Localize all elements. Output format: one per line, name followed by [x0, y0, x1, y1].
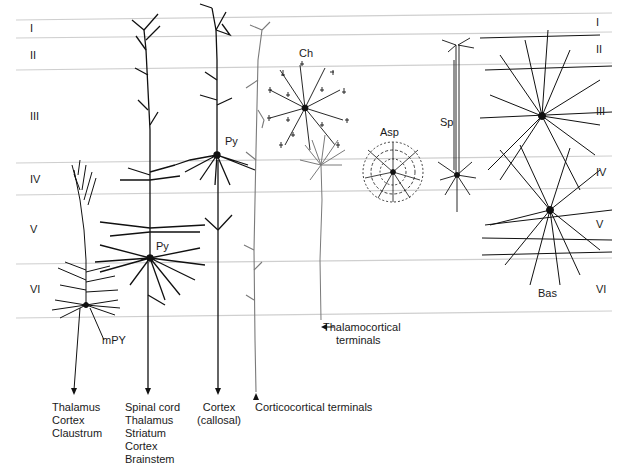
basket-cells — [480, 30, 612, 285]
layer-label-ii-left: II — [30, 49, 36, 61]
layer-label-i-right: I — [596, 16, 599, 28]
layer-label-iii-right: III — [596, 105, 605, 117]
aspiny-stellate-cell — [363, 142, 423, 202]
cell-label-bas: Bas — [538, 287, 557, 300]
cell-label-mpy: mPY — [102, 334, 126, 347]
layer-label-v-right: V — [596, 218, 603, 230]
target-striatum: Striatum — [125, 427, 180, 440]
target-thalamus: Thalamus — [125, 414, 180, 427]
target-spinal-cord: Spinal cord — [125, 401, 180, 414]
target-brainstem: Brainstem — [125, 453, 180, 466]
target-cortex: Cortex — [52, 414, 102, 427]
py-lower-targets: Spinal cord Thalamus Striatum Cortex Bra… — [125, 401, 180, 466]
thalamocortical-axon — [300, 135, 345, 320]
target-cortex: Cortex — [125, 440, 180, 453]
corticocortical-axon — [244, 22, 270, 392]
mpy-targets: Thalamus Cortex Claustrum — [52, 401, 102, 440]
cell-label-sp: Sp — [440, 116, 453, 129]
cell-label-asp: Asp — [380, 126, 399, 139]
cell-label-py-upper: Py — [225, 135, 238, 148]
layer-label-iii-left: III — [30, 110, 39, 122]
chandelier-cell — [267, 61, 349, 150]
target-cortex: Cortex — [197, 401, 241, 414]
thalamocortical-line2: terminals — [323, 334, 401, 347]
arrow-down-icon — [71, 388, 77, 395]
cell-label-py-lower: Py — [156, 240, 169, 253]
py-upper-targets: Cortex (callosal) — [197, 401, 241, 427]
layer-label-vi-left: VI — [30, 283, 40, 295]
corticocortical-terminals-label: Corticocortical terminals — [255, 401, 372, 414]
layer-label-v-left: V — [30, 223, 37, 235]
arrow-down-icon — [145, 388, 151, 395]
layer-label-ii-right: II — [596, 43, 602, 55]
target-callosal: (callosal) — [197, 414, 241, 427]
layer-boundaries — [16, 13, 612, 318]
arrow-left-icon — [321, 323, 335, 331]
layer-label-vi-right: VI — [596, 283, 606, 295]
pyramidal-neuron-layer-iii — [175, 4, 255, 390]
arrow-up-icon — [253, 393, 259, 400]
layer-label-i-left: I — [30, 22, 33, 34]
layer-label-iv-right: IV — [596, 166, 606, 178]
arrow-down-icon — [215, 388, 221, 395]
target-claustrum: Claustrum — [52, 427, 102, 440]
cell-label-ch: Ch — [299, 47, 313, 60]
layer-label-iv-left: IV — [30, 173, 40, 185]
target-thalamus: Thalamus — [52, 401, 102, 414]
